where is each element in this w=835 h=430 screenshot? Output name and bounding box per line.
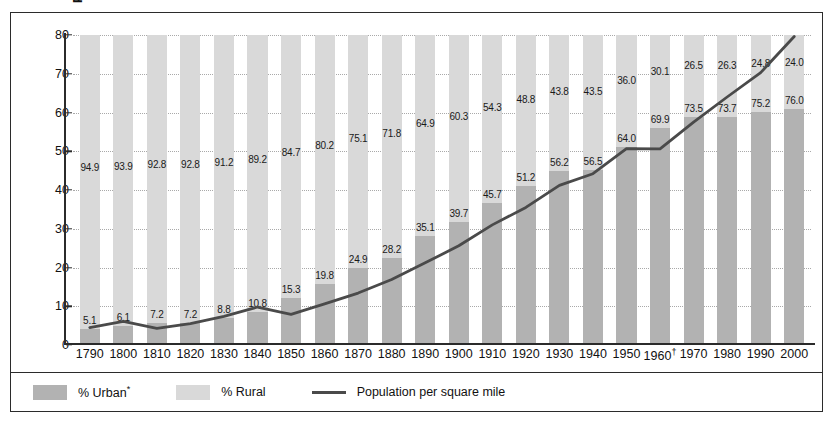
y-tick-mark xyxy=(66,34,72,35)
y-tick-label: 0 xyxy=(9,338,69,352)
x-tick-label: 1880 xyxy=(378,347,406,361)
x-tick-label: 1930 xyxy=(546,347,574,361)
y-tick-mark xyxy=(66,228,72,229)
x-tick-label: 1860 xyxy=(311,347,339,361)
legend-item-rural: % Rural xyxy=(176,385,265,400)
legend-label-rural: % Rural xyxy=(221,385,265,399)
legend-item-urban: % Urban* xyxy=(33,384,130,400)
y-tick-mark xyxy=(66,73,72,74)
y-tick-label: 60 xyxy=(9,106,69,120)
x-tick-label: 1920 xyxy=(512,347,540,361)
x-tick-label: 1830 xyxy=(210,347,238,361)
legend-label-line: Population per square mile xyxy=(357,385,506,399)
x-tick-label: 1800 xyxy=(109,347,137,361)
x-tick-label: 1840 xyxy=(244,347,272,361)
y-tick-label: 30 xyxy=(9,222,69,236)
x-tick-label: 1970 xyxy=(680,347,708,361)
population-density-line xyxy=(73,35,811,345)
x-tick-label: 1870 xyxy=(344,347,372,361)
y-tick-label: 40 xyxy=(9,183,69,197)
x-tick-label: 1990 xyxy=(747,347,775,361)
x-tick-label: 1810 xyxy=(143,347,171,361)
chart-panel: Population per square mile 0102030405060… xyxy=(10,12,823,412)
y-tick-label: 10 xyxy=(9,299,69,313)
x-axis-line xyxy=(64,343,815,345)
y-tick-mark xyxy=(66,306,72,307)
line-swatch-icon xyxy=(312,391,346,394)
x-tick-label: 1900 xyxy=(445,347,473,361)
y-tick-label: 50 xyxy=(9,144,69,158)
chart-legend: % Urban* % Rural Population per square m… xyxy=(11,372,822,411)
line-path xyxy=(90,37,794,329)
y-tick-label: 80 xyxy=(9,28,69,42)
x-tick-label: 1950 xyxy=(613,347,641,361)
plot-area: Population per square mile 0102030405060… xyxy=(73,35,811,345)
y-axis-line xyxy=(64,33,66,345)
x-tick-label: 1890 xyxy=(411,347,439,361)
legend-item-line: Population per square mile xyxy=(312,385,506,399)
x-tick-label: 1980 xyxy=(713,347,741,361)
x-tick-label: 1790 xyxy=(76,347,104,361)
chart-screenshot: Population per square mile 0102030405060… xyxy=(0,0,835,430)
y-tick-mark xyxy=(66,267,72,268)
urban-swatch-icon xyxy=(33,385,67,400)
y-tick-label: 20 xyxy=(9,261,69,275)
x-tick-label: 1960† xyxy=(644,347,677,363)
y-tick-mark xyxy=(66,151,72,152)
legend-label-urban: % Urban* xyxy=(78,384,130,400)
x-tick-label: 1820 xyxy=(177,347,205,361)
x-tick-label: 1850 xyxy=(277,347,305,361)
y-tick-mark xyxy=(66,189,72,190)
y-tick-mark xyxy=(66,112,72,113)
y-tick-label: 70 xyxy=(9,67,69,81)
rural-swatch-icon xyxy=(176,385,210,400)
x-tick-label: 1940 xyxy=(579,347,607,361)
x-tick-label: 2000 xyxy=(780,347,808,361)
x-tick-label: 1910 xyxy=(478,347,506,361)
